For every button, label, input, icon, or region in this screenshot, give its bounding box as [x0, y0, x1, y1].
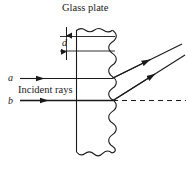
reflected-rays	[112, 44, 185, 101]
reflected-ray-b-arrow	[113, 74, 155, 101]
optics-diagram-figure: Glass plate d a b Incident rays	[0, 0, 189, 170]
wavy-right-edge	[109, 30, 117, 153]
wavy-top-edge	[77, 28, 113, 31]
wavy-bottom-edge	[77, 151, 113, 156]
ray-b-label: b	[8, 96, 13, 106]
ray-a-label: a	[8, 73, 13, 83]
thickness-label: d	[62, 38, 67, 48]
reflected-ray-a-arrow	[112, 60, 150, 79]
glass-plate-title: Glass plate	[62, 3, 108, 14]
glass-plate	[77, 28, 117, 155]
incident-rays-label: Incident rays	[18, 85, 73, 96]
